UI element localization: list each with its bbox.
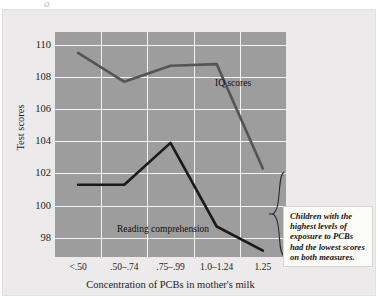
y-tick-label: 102 [11, 168, 51, 178]
series-line [78, 143, 263, 251]
y-axis-tick-labels: 98100102104106108110 [7, 32, 51, 257]
y-tick-label: 108 [11, 72, 51, 82]
y-tick-label: 98 [11, 233, 51, 243]
series-line [78, 53, 263, 169]
figure: g Test scores 98100102104106108110 IQ sc… [0, 0, 378, 305]
series-label-reading: Reading comprehension [117, 224, 209, 234]
y-tick-label: 100 [11, 201, 51, 211]
annotation-callout: Children with the highest levels of expo… [283, 206, 373, 267]
cropped-text-fragment: g [44, 0, 54, 7]
plot-area: IQ scores Reading comprehension [55, 32, 286, 257]
y-tick-label: 104 [11, 136, 51, 146]
y-tick-label: 110 [11, 40, 51, 50]
x-axis-tick-labels: <.50.50–.74.75–.991.0–1.241.25 [55, 262, 286, 276]
y-tick-label: 106 [11, 104, 51, 114]
x-axis-title: Concentration of PCBs in mother's milk [35, 279, 306, 290]
figure-panel: Test scores 98100102104106108110 IQ scor… [2, 9, 376, 296]
series-label-iq: IQ scores [215, 78, 251, 88]
